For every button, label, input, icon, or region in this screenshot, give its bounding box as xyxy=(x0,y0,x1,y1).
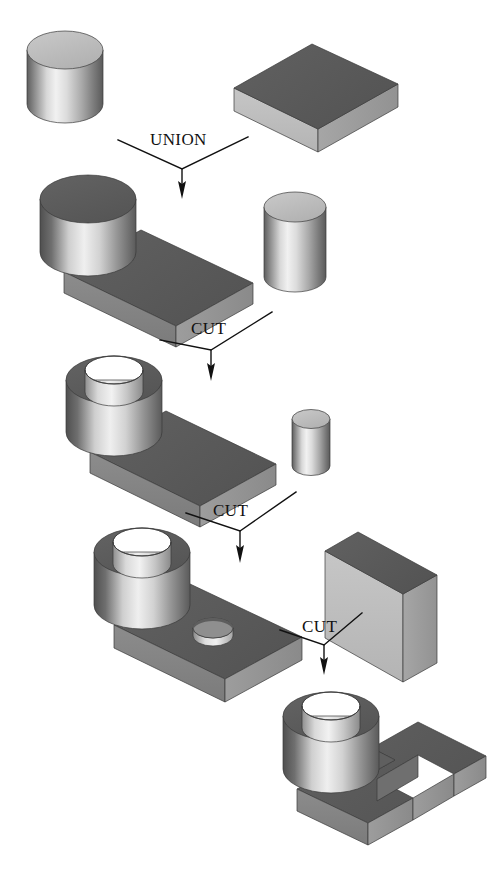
solid-cylinder-primitive xyxy=(27,31,103,123)
solid-small-hole-tool-cylinder xyxy=(292,410,330,476)
union-cylinder-top-face xyxy=(40,175,136,223)
bore-cylinder-top-face xyxy=(264,192,326,222)
op-label-union: UNION xyxy=(150,130,207,149)
diagram-canvas: UNION CUT xyxy=(0,0,489,873)
cylinder-top-face xyxy=(27,31,103,69)
csg-diagram-figure: UNION CUT xyxy=(0,0,489,873)
solid-bore-tool-cylinder xyxy=(264,192,326,292)
op-label-cut-2: CUT xyxy=(213,501,248,520)
small-cylinder-top-face xyxy=(292,410,330,429)
op-label-cut-1: CUT xyxy=(191,319,226,338)
op-label-cut-3: CUT xyxy=(302,617,337,636)
